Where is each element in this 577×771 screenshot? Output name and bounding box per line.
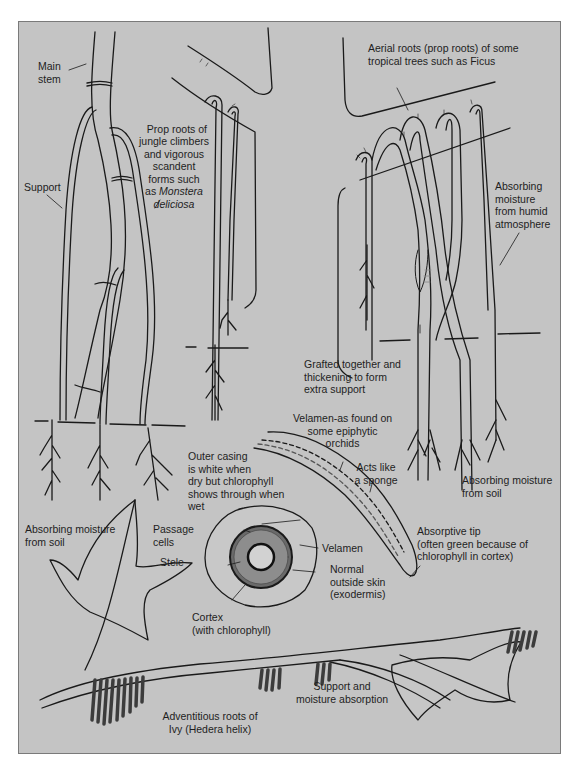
- label-main-stem: Main stem: [38, 60, 61, 85]
- label-velamen: Velamen: [322, 542, 363, 555]
- root-cross-section: [205, 506, 317, 607]
- label-absorptive-tip: Absorptive tip (often green because of c…: [417, 525, 528, 563]
- label-support-moisture: Support and moisture absorption: [282, 680, 402, 705]
- label-ivy-roots: Adventitious roots of Ivy (Hedera helix): [150, 710, 270, 735]
- label-absorbing-soil-right: Absorbing moisture from soil: [462, 474, 552, 499]
- label-absorbing-humid: Absorbing moisture from humid atmosphere: [495, 180, 550, 230]
- label-support: Support: [24, 181, 61, 194]
- label-cortex: Cortex (with chlorophyll): [192, 611, 271, 636]
- climber-wall-drawing: [172, 28, 272, 420]
- label-grafted: Grafted together and thickening to form …: [304, 358, 401, 396]
- label-monstera-genus: Monstera: [159, 185, 203, 197]
- label-aerial-roots: Aerial roots (prop roots) of some tropic…: [368, 42, 519, 67]
- label-velamen-orchids: Velamen-as found on some epiphytic orchi…: [280, 412, 405, 450]
- monstera-stem-drawing: [35, 32, 185, 500]
- label-stele: Stele: [160, 556, 184, 569]
- label-prop-roots-jungle: Prop roots of jungle climbers and vigoro…: [135, 110, 213, 210]
- label-outer-casing: Outer casing is white when dry but chlor…: [188, 450, 284, 513]
- label-absorbing-soil-left: Absorbing moisture from soil: [25, 523, 115, 548]
- root-modifications-illustration: [0, 0, 577, 771]
- label-acts-like-sponge: Acts like a sponge: [350, 461, 402, 486]
- label-passage-cells: Passage cells: [153, 523, 194, 548]
- label-monstera-species: deliciosa: [154, 198, 195, 210]
- label-normal-skin: Normal outside skin (exodermis): [330, 563, 385, 601]
